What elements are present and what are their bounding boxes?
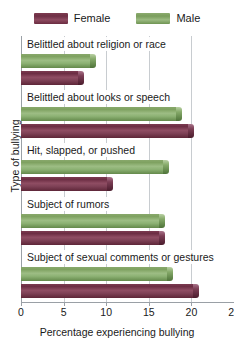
bar-end-cap — [188, 124, 194, 138]
bar-female — [21, 71, 81, 85]
bar-end-cap — [90, 54, 96, 68]
category-label: Subject of rumors — [25, 197, 112, 211]
bar-female — [21, 124, 191, 138]
bar-group: Belittled about religion or race — [21, 36, 234, 89]
bar-body — [21, 124, 191, 138]
legend-label-female: Female — [74, 13, 111, 24]
category-label: Belittled about looks or speech — [25, 90, 173, 104]
bar-body — [21, 214, 162, 228]
bar-male — [21, 214, 162, 228]
bar-group: Subject of sexual comments or gestures — [21, 249, 234, 302]
bar-end-cap — [159, 231, 165, 245]
bar-end-cap — [167, 267, 173, 281]
bar-end-cap — [193, 284, 199, 298]
bar-body — [21, 54, 93, 68]
legend-swatch-male-icon — [136, 13, 170, 24]
legend-item-female: Female — [34, 13, 111, 24]
chart-legend: Female Male — [0, 8, 234, 28]
bar-male — [21, 160, 166, 174]
x-tick-label-5: 5 — [61, 307, 67, 318]
x-tick-label-0: 0 — [18, 307, 24, 318]
bar-body — [21, 267, 170, 281]
bar-group: Belittled about looks or speech — [21, 89, 234, 142]
category-label: Hit, slapped, or pushed — [25, 143, 138, 157]
x-axis-line — [21, 302, 234, 303]
bar-female — [21, 284, 196, 298]
bar-male — [21, 54, 93, 68]
bar-male — [21, 267, 170, 281]
bar-group: Hit, slapped, or pushed — [21, 142, 234, 195]
bar-female — [21, 231, 162, 245]
legend-swatch-female-icon — [34, 13, 68, 24]
bar-female — [21, 177, 110, 191]
x-tick-label-15: 15 — [143, 307, 155, 318]
bar-body — [21, 160, 166, 174]
bar-end-cap — [176, 107, 182, 121]
bar-body — [21, 284, 196, 298]
x-tick-label-20: 20 — [186, 307, 198, 318]
category-label: Belittled about religion or race — [25, 37, 169, 51]
bar-male — [21, 107, 179, 121]
bar-group: Subject of rumors — [21, 196, 234, 249]
bar-end-cap — [107, 177, 113, 191]
bar-body — [21, 71, 81, 85]
bar-body — [21, 177, 110, 191]
plot-area: Belittled about religion or raceBelittle… — [21, 36, 234, 302]
bar-body — [21, 231, 162, 245]
x-tick-label-10: 10 — [100, 307, 112, 318]
legend-item-male: Male — [136, 13, 200, 24]
bar-groups: Belittled about religion or raceBelittle… — [21, 36, 234, 302]
bar-end-cap — [78, 71, 84, 85]
bar-end-cap — [163, 160, 169, 174]
x-tick-label-25: 25 — [228, 307, 234, 318]
bar-end-cap — [159, 214, 165, 228]
bar-body — [21, 107, 179, 121]
y-axis-label: Type of bullying — [9, 81, 21, 231]
x-axis-label: Percentage experiencing bullying — [0, 326, 234, 338]
legend-label-male: Male — [176, 13, 200, 24]
category-label: Subject of sexual comments or gestures — [25, 250, 217, 264]
